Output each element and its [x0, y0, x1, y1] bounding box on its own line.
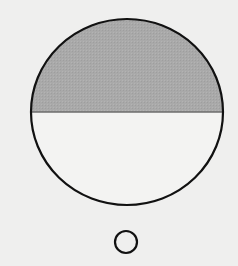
diagram-svg — [0, 0, 238, 266]
small-circle-o — [115, 231, 137, 253]
diagram-canvas: O — [0, 0, 238, 266]
